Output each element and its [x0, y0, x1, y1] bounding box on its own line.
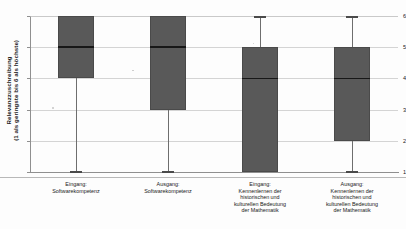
y-axis-title-line2: (1 als geringste bis 6 als höchste)	[12, 40, 19, 141]
median-line	[242, 78, 278, 80]
x-axis-line	[30, 172, 399, 173]
x-tick-label-line: Softwarekompetenz	[30, 188, 122, 195]
lower-whisker-cap	[162, 171, 174, 173]
y-axis-title-line1: Relevanzzuschreibung	[5, 56, 12, 124]
upper-whisker	[352, 16, 353, 47]
box-iqr-rect[interactable]	[334, 47, 370, 141]
x-tick-label-line: Eingang:	[30, 181, 122, 188]
x-tick-label-line: Softwarekompetenz	[122, 188, 214, 195]
lower-whisker-cap	[70, 171, 82, 173]
lower-whisker	[352, 141, 353, 172]
lower-whisker	[168, 110, 169, 172]
lower-whisker	[76, 78, 77, 172]
x-tick-label-line: Ausgang:	[122, 181, 214, 188]
upper-whisker-cap	[346, 16, 358, 18]
box-iqr-rect[interactable]	[242, 47, 278, 172]
x-tick-label: Ausgang:Kennenlernen derhistorischen und…	[306, 181, 398, 214]
x-tick-label-line: kulturellen Bedeutung	[306, 201, 398, 208]
x-tick-label-line: kulturellen Bedeutung	[214, 201, 306, 208]
x-tick-label: Eingang:Softwarekompetenz	[30, 181, 122, 194]
scan-speck	[52, 107, 54, 109]
x-tick-label-line: der Mathematik	[214, 207, 306, 214]
x-tick-label-line: Kennenlernen der	[306, 188, 398, 195]
boxplot-chart: Relevanzzuschreibung (1 als geringste bi…	[0, 0, 406, 229]
x-tick-label-line: historischen und	[306, 194, 398, 201]
x-tick-label: Ausgang:Softwarekompetenz	[122, 181, 214, 194]
x-tick-label-line: Ausgang:	[306, 181, 398, 188]
x-tick-label-line: Kennenlernen der	[214, 188, 306, 195]
upper-whisker-cap	[254, 16, 266, 18]
median-line	[58, 46, 94, 48]
median-line	[150, 46, 186, 48]
box-iqr-rect[interactable]	[150, 16, 186, 110]
y-axis-title: Relevanzzuschreibung (1 als geringste bi…	[0, 0, 24, 180]
x-tick-label-line: historischen und	[214, 194, 306, 201]
median-line	[334, 78, 370, 80]
x-tick-label-line: der Mathematik	[306, 207, 398, 214]
x-axis-label-separator	[0, 177, 406, 178]
x-tick-label-line: Eingang:	[214, 181, 306, 188]
lower-whisker-cap	[346, 171, 358, 173]
x-tick-label: Eingang:Kennenlernen derhistorischen und…	[214, 181, 306, 214]
upper-whisker	[260, 16, 261, 47]
